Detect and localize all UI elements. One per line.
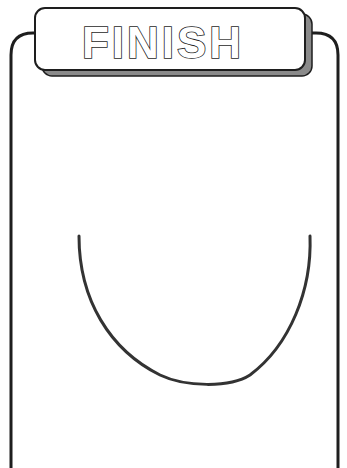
card-frame bbox=[11, 33, 40, 468]
card-frame-right bbox=[308, 33, 338, 468]
u-curve-drawing bbox=[79, 236, 310, 384]
finish-card: FINISH bbox=[0, 0, 347, 468]
banner-title: FINISH bbox=[82, 18, 244, 67]
